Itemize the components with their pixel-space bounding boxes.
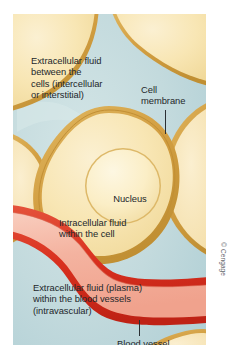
nucleus-body (87, 150, 160, 223)
tissue-illustration (13, 14, 206, 345)
illustration-plate: Extracellular fluid between the cells (i… (13, 14, 206, 345)
nucleus (85, 148, 161, 224)
figure-root: Extracellular fluid between the cells (i… (0, 0, 229, 361)
copyright-credit: © Cengage (220, 242, 227, 276)
